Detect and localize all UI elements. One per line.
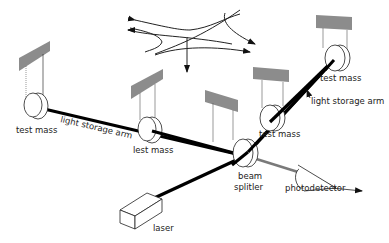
label-beam-splitter-1: beam [238,171,262,181]
label-test-mass-far-right: test mass [320,73,362,83]
interferometer-diagram: test mass light storage arm lest mass te… [0,0,389,243]
gravitational-wave-icon [128,10,255,72]
test-mass-far-left [19,41,50,119]
label-light-storage-arm-right: light storage arm [311,96,384,106]
label-test-mass-near-left: lest mass [133,145,174,155]
label-photodetector: photodetector [285,183,346,193]
arm-pointer [307,90,310,98]
label-test-mass-far-left: test mass [16,125,58,135]
label-test-mass-near-right: test mass [259,129,301,139]
label-laser: laser [153,223,174,233]
beam-splitter [205,90,258,167]
label-light-storage-arm-left: light storage arm [60,114,134,140]
label-beam-splitter-2: splitler [234,182,263,192]
test-mass-far-right [316,15,352,71]
laser-beam [150,156,245,200]
